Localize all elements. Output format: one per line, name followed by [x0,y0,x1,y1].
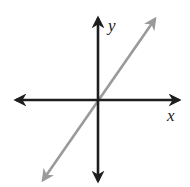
y-axis-label: y [106,16,116,35]
diagram-svg: y x [0,0,190,187]
coordinate-plane-diagram: y x [0,0,190,187]
x-axis-label: x [166,106,175,125]
